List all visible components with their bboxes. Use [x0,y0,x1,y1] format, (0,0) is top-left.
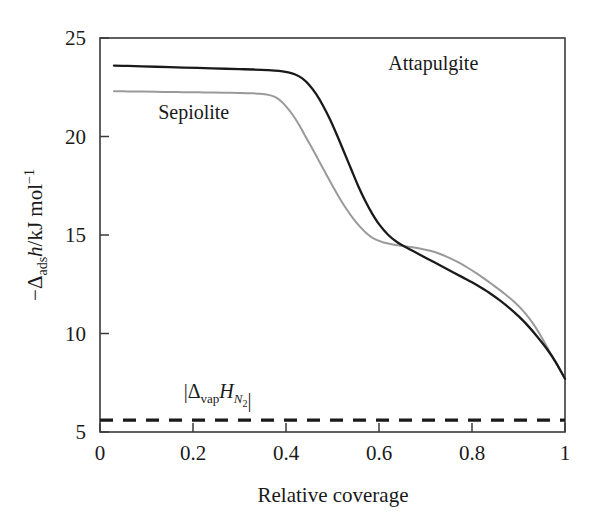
x-axis-title: Relative coverage [258,483,409,507]
chart-figure: 00.20.40.60.81 510152025 Attapulgite Sep… [0,0,598,513]
x-tick-label-0: 0 [95,441,106,465]
y-tick-label-15: 15 [65,223,86,247]
y-tick-label-10: 10 [65,322,86,346]
x-tick-label-0.8: 0.8 [459,441,485,465]
y-tick-label-25: 25 [65,26,86,50]
series-label-sepiolite: Sepiolite [158,101,229,124]
x-tick-label-0.6: 0.6 [366,441,392,465]
x-tick-label-0.4: 0.4 [273,441,300,465]
x-tick-label-1: 1 [560,441,571,465]
series-label-attapulgite: Attapulgite [388,52,478,75]
x-tick-label-0.2: 0.2 [180,441,206,465]
y-tick-label-20: 20 [65,125,86,149]
adsorption-enthalpy-chart: 00.20.40.60.81 510152025 Attapulgite Sep… [0,0,598,513]
y-axis-title: −Δadsh/kJ mol−1 [22,169,50,301]
y-tick-label-5: 5 [76,420,87,444]
